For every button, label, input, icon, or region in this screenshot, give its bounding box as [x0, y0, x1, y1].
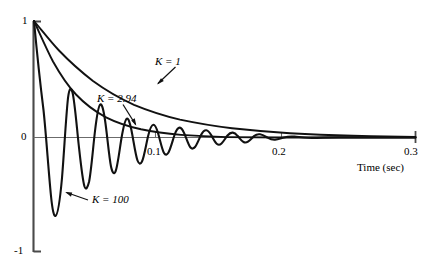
x-tick-label-0-3: 0.3 [404, 146, 418, 157]
x-tick-label-0-1: 0.1 [147, 146, 161, 157]
chart-figure: 1 0 -1 0.1 0.2 0.3 Time (sec) K = 1 K = … [0, 0, 433, 277]
curve-k-1 [34, 21, 416, 137]
x-axis-title: Time (sec) [357, 162, 404, 173]
y-tick-label-0: 0 [21, 131, 27, 142]
chart-plot-area [0, 0, 433, 277]
y-tick-label-1: 1 [22, 15, 28, 26]
y-tick-label-minus-1: -1 [14, 245, 23, 256]
series-label-k-100: K = 100 [92, 194, 129, 205]
curve-k-100 [34, 21, 416, 216]
series-label-k-2-94: K = 2.94 [97, 93, 137, 104]
x-tick-label-0-2: 0.2 [272, 146, 286, 157]
series-label-k-1: K = 1 [155, 56, 181, 67]
arrow-head-k-100 [65, 192, 72, 197]
